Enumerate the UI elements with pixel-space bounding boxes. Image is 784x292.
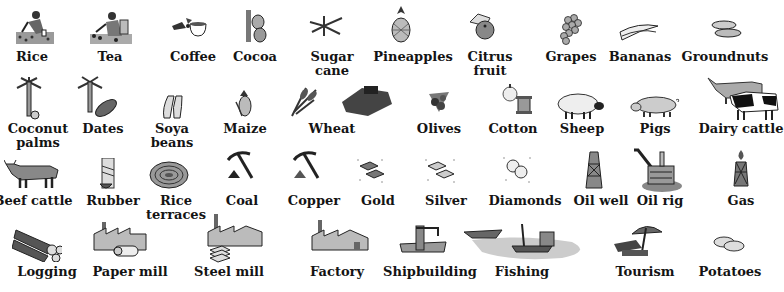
legend-label: Olives (417, 122, 461, 136)
legend-label: Fishing (495, 265, 549, 279)
steel-mill-icon (206, 214, 266, 264)
legend-label: Steel mill (194, 265, 264, 279)
legend-label: Bananas (609, 50, 671, 64)
potatoes-icon (712, 236, 746, 252)
legend-label: Citrus fruit (468, 50, 513, 78)
offshore-oil-rig-icon (632, 148, 682, 192)
pickaxe-copper-icon (292, 150, 320, 180)
legend-label: Diamonds (489, 194, 562, 208)
gas-flare-icon (732, 150, 750, 188)
legend-label: Cotton (488, 122, 537, 136)
log-pile-icon (12, 226, 62, 262)
legend-label: Coffee (170, 50, 216, 64)
coffee-cup-icon (170, 14, 210, 38)
gold-bars-icon (356, 156, 386, 184)
oil-derrick-icon (582, 150, 606, 190)
legend-label: Pigs (639, 122, 670, 136)
legend-label: Beef cattle (0, 194, 73, 208)
cocoa-pods-icon (244, 8, 268, 44)
wheat-harvester-icon (288, 82, 398, 118)
legend-label: Gold (361, 194, 395, 208)
legend-label: Paper mill (92, 265, 167, 279)
legend-label: Rice terraces (146, 194, 206, 222)
sugar-cane-icon (308, 14, 344, 38)
legend-label: Dairy cattle (698, 122, 783, 136)
legend-label: Shipbuilding (383, 265, 477, 279)
shipbuilding-crane-icon (398, 224, 448, 254)
factory-icon (310, 218, 370, 252)
soya-beans-icon (160, 92, 190, 120)
legend-label: Wheat (309, 122, 356, 136)
legend-label: Tea (98, 50, 123, 64)
beef-cattle-icon (4, 160, 62, 190)
pineapple-icon (388, 6, 414, 44)
legend-label: Pineapples (373, 50, 453, 64)
legend-label: Rice (16, 50, 48, 64)
legend-label: Oil rig (637, 194, 684, 208)
grapes-icon (556, 12, 584, 46)
dairy-cattle-icon (702, 74, 779, 122)
legend-label: Groundnuts (682, 50, 769, 64)
fishing-boats-icon (462, 222, 592, 262)
legend-label: Dates (82, 122, 123, 136)
legend-label: Grapes (545, 50, 596, 64)
legend-label: Copper (288, 194, 340, 208)
legend-label: Rubber (86, 194, 140, 208)
sheep-icon (556, 92, 606, 120)
pickaxe-coal-icon (226, 150, 254, 180)
legend-label: Silver (425, 194, 467, 208)
legend-label: Gas (728, 194, 755, 208)
silver-bars-icon (424, 156, 458, 184)
tea-picker-icon (88, 10, 134, 46)
legend-label: Sheep (560, 122, 604, 136)
legend-label: Coal (226, 194, 258, 208)
pig-icon (630, 94, 680, 118)
legend-label: Potatoes (699, 265, 762, 279)
legend-label: Oil well (573, 194, 628, 208)
legend-label: Factory (310, 265, 364, 279)
olives-icon (425, 88, 453, 116)
legend-label: Tourism (615, 265, 674, 279)
legend-label: Maize (223, 122, 266, 136)
groundnuts-icon (708, 18, 744, 40)
bananas-icon (618, 20, 660, 42)
rice-farmer-icon (14, 10, 56, 46)
beach-umbrella-icon (612, 222, 666, 258)
diamonds-icon (502, 154, 532, 184)
legend-label: Logging (17, 265, 76, 279)
coconut-palm-icon (14, 76, 44, 120)
legend-label: Sugar cane (310, 50, 353, 78)
legend-label: Soya beans (151, 122, 194, 150)
rubber-tree-icon (96, 158, 118, 192)
maize-cob-icon (232, 88, 256, 118)
paper-mill-icon (92, 220, 148, 260)
rice-terraces-icon (148, 160, 190, 190)
legend-label: Coconut palms (8, 122, 69, 150)
cotton-spool-icon (500, 82, 534, 116)
citrus-fruit-icon (468, 12, 498, 40)
legend-label: Cocoa (233, 50, 277, 64)
date-palm-icon (76, 76, 120, 120)
